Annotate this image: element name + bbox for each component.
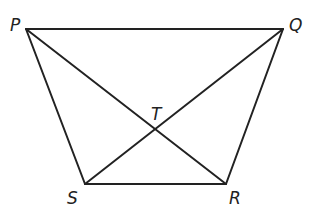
label-s: S: [67, 188, 78, 208]
label-p: P: [10, 15, 21, 35]
label-t: T: [151, 104, 163, 124]
label-r: R: [229, 188, 241, 208]
diagonal-qs: [85, 29, 283, 184]
trapezoid-diagram: P Q T S R: [0, 0, 313, 216]
label-q: Q: [289, 15, 302, 35]
